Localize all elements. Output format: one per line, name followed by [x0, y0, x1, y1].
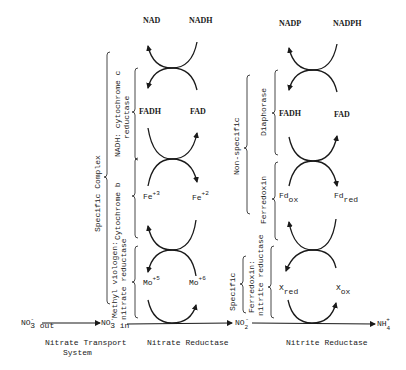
diaphorase-brace: [272, 70, 278, 155]
nitrate-assimilation-diagram: NAD NADH FADH FAD Fe+3 Fe+2 Mo+5 Mo+6: [0, 0, 406, 370]
fadh-to-fad-arrow-right: [289, 136, 337, 161]
fad-label: FAD: [190, 107, 206, 116]
fe2-label: Fe+2: [192, 190, 209, 202]
nitrite-reductase-label: Nitrite Reductase: [286, 338, 368, 347]
fad-fd-exchange-arrows: [289, 136, 337, 186]
specific-label: Specific: [228, 272, 237, 311]
mo6-to-mo5-arrow: [148, 250, 196, 276]
cytochrome-b-label: Cytochrome b: [113, 182, 122, 240]
nadh-to-nad-arrow: [148, 42, 197, 68]
nitrate-reductase-column: NAD NADH FADH FAD Fe+3 Fe+2 Mo+5 Mo+6: [93, 16, 213, 323]
nitrite-reduction-arrow: [252, 323, 375, 324]
nadp-label: NADP: [279, 19, 301, 28]
pathway-baseline: NO-3 out NO-3 in NO2- NH4+: [21, 316, 391, 332]
ferredoxin-label: Ferredoxin: [259, 176, 268, 224]
nadp-fad-exchange-arrows: [289, 44, 337, 92]
nitrate-transport-system-label-2: System: [63, 348, 92, 357]
specific-complex-label: Specific Complex: [93, 155, 102, 232]
fd-x-exchange-arrows: [286, 219, 336, 271]
nadh-cyt-c-reductase-label-2: reductase: [122, 96, 131, 139]
fe3-label: Fe+3: [143, 190, 160, 201]
nitrate-transport-system-label-1: Nitrate Transport: [45, 338, 127, 347]
fad-to-fadh-arrow-right: [289, 70, 337, 92]
specific-brace: [240, 256, 246, 313]
x-ox-label: Xox: [336, 283, 351, 296]
x-nitrite-exchange-arrows: [288, 300, 336, 323]
fd-red-to-fd-ox-arrow: [289, 219, 336, 250]
cytochrome-b-brace: [132, 158, 138, 238]
nh4-label: NH4+: [377, 316, 391, 332]
methyl-viologen-label-2: nitrate reductase: [119, 238, 128, 320]
fe-mo-exchange-arrows: [148, 220, 196, 276]
nitrate-reductase-label: Nitrate Reductase: [147, 338, 229, 347]
nadh-cyt-c-brace: [132, 68, 138, 160]
fadh-label-right: FADH: [279, 109, 302, 118]
fe2-to-fe3-arrow: [148, 220, 196, 250]
non-specific-label: Non-specific: [232, 117, 241, 175]
nad-label: NAD: [143, 16, 161, 25]
x-red-label: Xred: [279, 283, 298, 296]
no2-label: NO2-: [235, 316, 249, 331]
fd-ox-to-fd-red-arrow: [289, 161, 337, 186]
diaphorase-label: Diaphorase: [259, 88, 268, 136]
non-specific-brace: [244, 75, 250, 214]
fad-label-right: FAD: [334, 110, 350, 119]
nitrate-reduction-arrow: [127, 323, 232, 324]
fd-nitrite-reductase-label-1: Ferredoxin:: [247, 260, 256, 313]
fe3-to-fe2-arrow: [148, 159, 197, 186]
fd-red-label: Fdred: [334, 191, 358, 204]
methyl-viologen-label-1: Methyl viologen:: [110, 241, 119, 318]
fad-fe-exchange-arrows: [148, 128, 197, 186]
fadh-to-fad-arrow: [148, 128, 197, 159]
fd-nitrite-reductase-brace: [268, 246, 274, 318]
mo5-label: Mo+5: [143, 275, 160, 287]
nadph-label: NADPH: [333, 19, 362, 28]
fadh-label: FADH: [139, 107, 162, 116]
x-red-to-x-ox-arrow: [288, 300, 336, 323]
fad-to-fadh-arrow: [148, 68, 197, 90]
mo5-to-mo6-arrow: [148, 300, 196, 323]
fd-nitrite-reductase-label-2: nitrite reductase: [256, 234, 265, 316]
nadh-label: NADH: [189, 16, 213, 25]
methyl-viologen-brace: [132, 246, 138, 318]
ferredoxin-brace: [272, 162, 278, 240]
nadh-cyt-c-reductase-label-1: NADH: cytochrome c: [113, 70, 122, 157]
mo6-label: Mo+6: [189, 275, 206, 287]
fd-ox-label: Fdox: [279, 191, 298, 204]
nadph-to-nadp-arrow: [289, 44, 337, 70]
mo-nitrate-exchange-arrows: [148, 300, 196, 323]
stage-labels: Nitrate Transport System Nitrate Reducta…: [45, 338, 368, 357]
x-ox-to-x-red-arrow: [286, 250, 336, 271]
nitrite-reductase-column: NADP NADPH FADH FAD Fdox Fdred Xred Xox: [228, 19, 362, 323]
nad-fad-exchange-arrows: [148, 42, 197, 90]
